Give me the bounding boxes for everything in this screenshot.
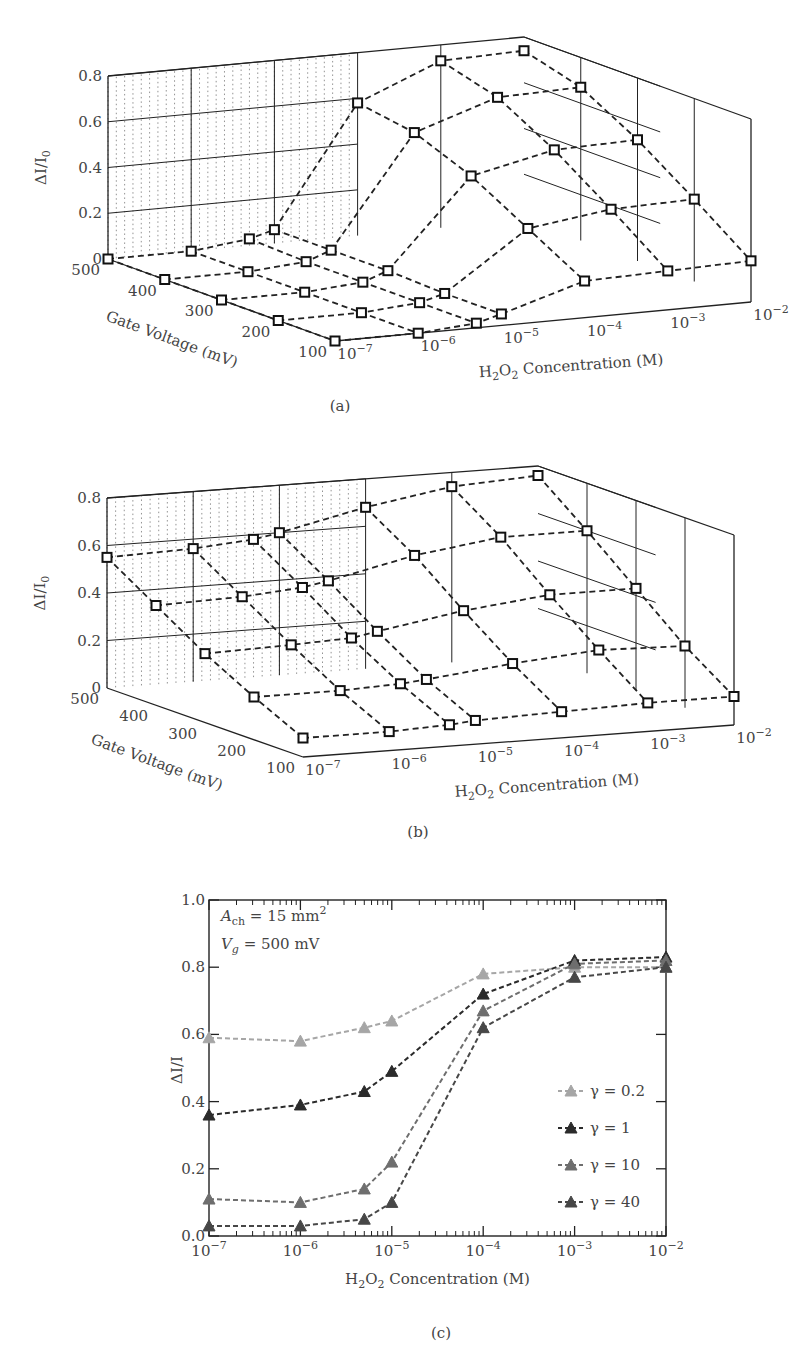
square-marker (189, 544, 198, 553)
concentration-axis-title: H2O2 Concentration (M) (478, 350, 664, 384)
legend-label: γ = 40 (590, 1193, 640, 1211)
x-tick-label: 10−3 (557, 1239, 592, 1260)
concentration-tick-label: 10−2 (736, 726, 771, 747)
y-tick-label: 0.2 (181, 1160, 205, 1178)
square-marker (633, 135, 642, 144)
z-tick-label: 0.2 (78, 204, 102, 222)
square-marker (410, 128, 419, 137)
chart-c-canvas: 0.00.20.40.60.81.010−710−610−510−410−310… (0, 860, 811, 1359)
legend-label: γ = 1 (590, 1119, 631, 1137)
x-tick-label: 10−6 (283, 1239, 318, 1260)
square-marker (607, 205, 616, 214)
triangle-marker (294, 1220, 306, 1231)
z-tick-label: 0.6 (77, 537, 101, 555)
square-marker (299, 734, 308, 743)
square-marker (300, 288, 309, 297)
x-tick-label: 10−2 (648, 1239, 683, 1260)
square-marker (663, 266, 672, 275)
x-tick-label: 10−7 (191, 1239, 226, 1260)
square-marker (274, 316, 283, 325)
gate-voltage-tick-label: 500 (71, 261, 100, 279)
square-marker (103, 553, 112, 562)
square-marker (324, 576, 333, 585)
annotation-channel-area: Ach = 15 mm2 (219, 904, 327, 928)
line-plot: 0.00.20.40.60.81.010−710−610−510−410−310… (168, 891, 684, 1291)
square-marker (243, 267, 252, 276)
series-0 (209, 967, 666, 1041)
square-marker (681, 642, 690, 651)
back-walls (107, 466, 734, 725)
chart-b-canvas: 00.20.40.60.8ΔI/I0500400300200100Gate Vo… (0, 430, 811, 860)
x-axis-title: H2O2 Concentration (M) (345, 1270, 530, 1291)
gate-voltage-tick-label: 400 (119, 707, 148, 725)
triangle-marker (477, 1022, 489, 1033)
concentration-tick-label: 10−5 (478, 745, 513, 766)
concentration-tick-label: 10−6 (392, 752, 427, 773)
y-axis-title: ΔI/I (168, 1056, 186, 1084)
triangle-marker (386, 1015, 398, 1026)
concentration-tick-label: 10−4 (587, 319, 622, 340)
concentration-tick-label: 10−7 (305, 758, 340, 779)
gate-voltage-tick-label: 100 (298, 343, 327, 361)
x-tick-label: 10−5 (374, 1239, 409, 1260)
z-tick-label: 0.4 (78, 159, 102, 177)
square-marker (440, 289, 449, 298)
triangle-marker (386, 1196, 398, 1207)
square-marker (385, 727, 394, 736)
square-marker (302, 257, 311, 266)
square-marker (327, 246, 336, 255)
concentration-tick-label: 10−3 (650, 732, 685, 753)
square-marker (104, 255, 113, 264)
y-tick-label: 0.4 (181, 1093, 205, 1111)
concentration-axis-title: H2O2 Concentration (M) (454, 770, 640, 804)
gate-voltage-tick-label: 300 (185, 302, 214, 320)
triangle-marker (569, 971, 581, 982)
legend-label: γ = 0.2 (590, 1082, 645, 1100)
square-marker (250, 693, 259, 702)
square-marker (152, 601, 161, 610)
square-marker (550, 145, 559, 154)
triangle-marker (358, 1213, 370, 1224)
square-marker (245, 234, 254, 243)
gate-voltage-tick-label: 100 (266, 759, 295, 777)
square-marker (594, 646, 603, 655)
gate-voltage-tick-label: 200 (242, 323, 271, 341)
square-marker (373, 627, 382, 636)
gate-voltage-tick-label: 200 (217, 742, 246, 760)
square-marker (447, 482, 456, 491)
square-marker (347, 634, 356, 643)
caption-a: (a) (330, 397, 351, 415)
square-marker (287, 640, 296, 649)
square-marker (415, 298, 424, 307)
gate-voltage-tick-label: 400 (128, 282, 157, 300)
triangle-marker (477, 1005, 489, 1016)
z-tick-label: 0.2 (77, 632, 101, 650)
surface-mesh (108, 51, 751, 341)
z-tick-label: 0.8 (78, 67, 102, 85)
square-marker (217, 296, 226, 305)
square-marker (331, 337, 340, 346)
legend: γ = 0.2γ = 1γ = 10γ = 40 (558, 1082, 645, 1211)
surface-mesh (107, 476, 734, 739)
gate-voltage-tick-label: 300 (168, 725, 197, 743)
square-marker (496, 533, 505, 542)
square-marker (534, 471, 543, 480)
concentration-tick-label: 10−5 (504, 326, 539, 347)
z-tick-label: 0.4 (77, 584, 101, 602)
square-marker (467, 171, 476, 180)
square-marker (361, 503, 370, 512)
square-marker (583, 526, 592, 535)
surface-plot: 00.20.40.60.8ΔI/I0500400300200100Gate Vo… (31, 466, 772, 804)
y-tick-label: 0.6 (181, 1025, 205, 1043)
concentration-tick-label: 10−2 (753, 303, 788, 324)
z-tick-label: 0.8 (77, 489, 101, 507)
concentration-tick-label: 10−4 (564, 739, 599, 760)
square-marker (396, 679, 405, 688)
legend-label: γ = 10 (590, 1156, 640, 1174)
square-marker (493, 93, 502, 102)
square-marker (298, 583, 307, 592)
triangle-marker (386, 1156, 398, 1167)
square-marker (643, 698, 652, 707)
x-tick-label: 10−4 (466, 1239, 501, 1260)
z-axis-title: ΔI/I0 (31, 576, 52, 611)
